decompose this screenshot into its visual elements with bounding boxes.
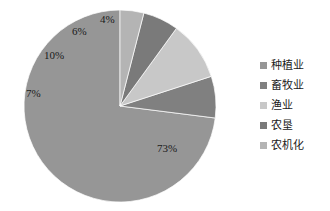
legend-item[interactable]: 畜牧业 [260,78,330,92]
legend-item-label: 渔业 [271,100,293,111]
legend-swatch-icon [260,142,267,149]
chart-legend: 种植业畜牧业渔业农垦农机化 [260,58,330,152]
pie-plot-area: 73% 7% 10% 6% 4% [0,0,240,211]
legend-item-label: 农垦 [271,120,293,131]
legend-swatch-icon [260,102,267,109]
legend-item-label: 种植业 [271,60,304,71]
legend-swatch-icon [260,122,267,129]
legend-item-label: 畜牧业 [271,80,304,91]
legend-item-label: 农机化 [271,140,304,151]
legend-swatch-icon [260,62,267,69]
pie-svg [0,0,240,211]
pie-slice-group [24,10,216,202]
slice-value-label-1: 7% [26,88,41,99]
legend-item[interactable]: 农垦 [260,118,330,132]
slice-value-label-3: 6% [72,26,87,37]
slice-value-label-2: 10% [44,50,64,61]
legend-item[interactable]: 种植业 [260,58,330,72]
legend-item[interactable]: 渔业 [260,98,330,112]
slice-value-label-0: 73% [157,143,177,154]
slice-value-label-4: 4% [100,14,115,25]
pie-chart-figure: 73% 7% 10% 6% 4% 种植业畜牧业渔业农垦农机化 [0,0,330,211]
legend-swatch-icon [260,82,267,89]
legend-item[interactable]: 农机化 [260,138,330,152]
